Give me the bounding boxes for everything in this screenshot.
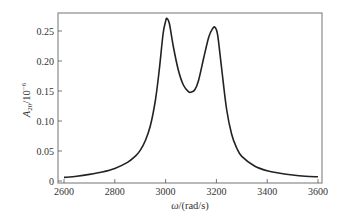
data-series-line xyxy=(64,18,318,177)
x-tick-label: 2800 xyxy=(105,186,125,197)
x-tick-label: 3000 xyxy=(156,186,176,197)
y-tick-label: 0.10 xyxy=(37,116,55,127)
x-axis-ticks: 260028003000320034003600 xyxy=(54,179,328,197)
chart: 00.050.100.150.200.25 260028003000320034… xyxy=(0,0,344,224)
x-tick-label: 3600 xyxy=(308,186,328,197)
y-tick-label: 0.05 xyxy=(37,146,55,157)
y-tick-label: 0.15 xyxy=(37,86,55,97)
plot-frame xyxy=(58,13,322,183)
x-tick-label: 3400 xyxy=(257,186,277,197)
y-axis-label: A20/10−6 xyxy=(20,82,34,118)
x-axis-label: ω/(rad/s) xyxy=(171,200,209,212)
y-tick-label: 0.25 xyxy=(37,26,55,37)
y-tick-label: 0.20 xyxy=(37,56,55,67)
x-tick-label: 3200 xyxy=(206,186,226,197)
y-tick-label: 0 xyxy=(49,176,54,187)
x-tick-label: 2600 xyxy=(54,186,74,197)
